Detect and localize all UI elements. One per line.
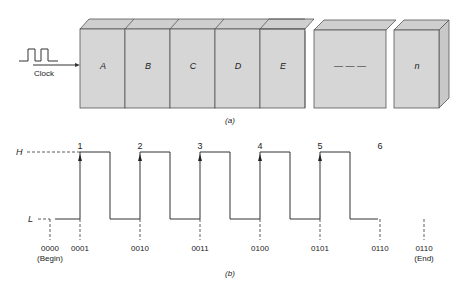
pulse-4-label: 4: [257, 141, 262, 151]
rising-edge-arrows: [78, 154, 322, 161]
state-0010: 0010: [131, 244, 149, 253]
state-0101: 0101: [311, 244, 329, 253]
state-0110-end: 0110: [415, 244, 433, 253]
state-guides: [50, 219, 424, 240]
state-0110: 0110: [371, 244, 389, 253]
level-guides: [27, 152, 80, 219]
stage-n-block: [394, 20, 449, 108]
caption-b: (b): [225, 269, 235, 278]
state-0011: 0011: [191, 244, 209, 253]
stage-e-label: E: [280, 61, 287, 71]
stage-a-label: A: [99, 61, 106, 71]
stage-ellipsis-label: — — —: [334, 61, 366, 71]
caption-a: (a): [225, 116, 235, 125]
pulse-2-label: 2: [137, 141, 142, 151]
clock-waveform-icon: [19, 49, 58, 61]
state-0100: 0100: [251, 244, 269, 253]
clock-arrow: [33, 63, 80, 67]
level-low-label: L: [28, 214, 33, 224]
state-0001: 0001: [71, 244, 89, 253]
pulse-6-label: 6: [377, 141, 382, 151]
clock-waveform: [55, 152, 378, 219]
stage-d-label: D: [235, 61, 242, 71]
stage-b-label: B: [145, 61, 151, 71]
clock-label: Clock: [34, 69, 55, 78]
pulse-3-label: 3: [197, 141, 202, 151]
pulse-1-label: 1: [77, 141, 82, 151]
pulse-5-label: 5: [317, 141, 322, 151]
stage-n-label: n: [414, 61, 419, 71]
counter-diagram: Clock A B C D E — — — n (a) H: [0, 0, 460, 290]
end-label: (End): [414, 254, 434, 263]
state-0000: 0000: [41, 244, 59, 253]
level-high-label: H: [16, 147, 23, 157]
stage-c-label: C: [190, 61, 197, 71]
begin-label: (Begin): [37, 254, 63, 263]
